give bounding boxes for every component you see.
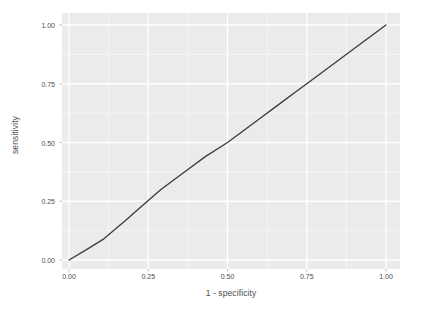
y-tick-label: 0.25: [25, 198, 55, 205]
y-tick-label: 0.50: [25, 139, 55, 146]
y-axis-tick-labels: 0.000.250.500.751.00: [22, 0, 55, 311]
y-tick-label: 0.00: [25, 257, 55, 264]
roc-chart: 0.000.250.500.751.00 0.000.250.500.751.0…: [0, 0, 423, 311]
x-axis-title: 1 - specificity: [62, 288, 400, 298]
x-tick-label: 1.00: [366, 273, 406, 280]
x-tick-label: 0.75: [287, 273, 327, 280]
y-tick-label: 1.00: [25, 22, 55, 29]
x-axis-tick-labels: 0.000.250.500.751.00: [0, 273, 423, 287]
x-tick-label: 0.00: [49, 273, 89, 280]
chart-canvas: [0, 0, 423, 311]
x-tick-label: 0.25: [128, 273, 168, 280]
y-tick-label: 0.75: [25, 80, 55, 87]
x-tick-label: 0.50: [208, 273, 248, 280]
